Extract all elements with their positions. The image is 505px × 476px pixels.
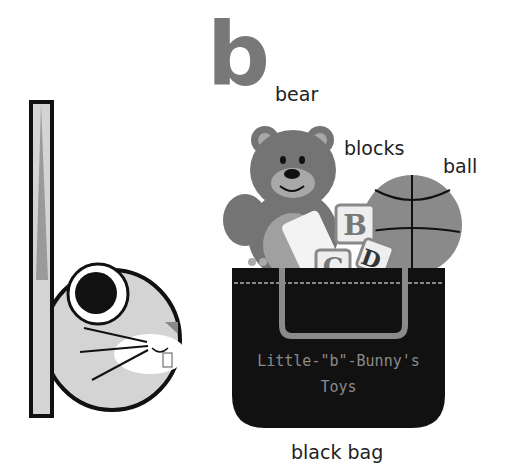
black-bag-icon [232,268,445,428]
bunny-ear-stem-icon [31,102,52,416]
bunny-b-illustration: B C D [0,0,505,476]
bag-text-line1: Little-"b"-Bunny's [232,352,445,370]
svg-text:B: B [343,209,367,242]
bag-text-line2: Toys [232,378,445,396]
bunny-head-icon [44,264,186,410]
